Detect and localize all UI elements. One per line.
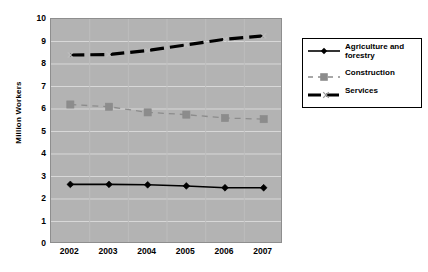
- legend-label-line1: Agriculture and: [345, 42, 404, 51]
- x-tick-label: 2005: [165, 247, 205, 256]
- series-marker: [145, 48, 150, 53]
- y-tick-label: 4: [22, 149, 46, 158]
- series-marker: [144, 181, 151, 188]
- series-marker: [221, 114, 228, 121]
- x-tick-label: 2002: [49, 247, 89, 256]
- series-marker: [105, 103, 112, 110]
- legend-swatch-icon: [306, 69, 342, 85]
- legend-label-line2: forestry: [345, 52, 421, 61]
- series-marker: [183, 111, 190, 118]
- legend-label-line1: Services: [345, 86, 378, 95]
- x-tick-label: 2007: [243, 247, 283, 256]
- series-marker: [67, 181, 74, 188]
- series-marker: [222, 184, 229, 191]
- legend-swatch-icon: [306, 43, 342, 59]
- y-tick-label: 7: [22, 82, 46, 91]
- y-axis-tick-labels: 109876543210: [20, 0, 46, 272]
- x-tick-label: 2003: [88, 247, 128, 256]
- y-tick-label: 6: [22, 104, 46, 113]
- series-marker: [260, 184, 267, 191]
- y-tick-label: 9: [22, 37, 46, 46]
- y-tick-label: 8: [22, 59, 46, 68]
- legend-label: Construction: [345, 69, 421, 78]
- legend-item-1[interactable]: Agriculture andforestry: [303, 43, 423, 63]
- legend-item-3[interactable]: Services: [303, 87, 423, 107]
- plot-canvas: [51, 19, 282, 243]
- y-tick-label: 1: [22, 217, 46, 226]
- x-tick-label: 2004: [127, 247, 167, 256]
- chart-figure: Million Workers 109876543210 20022003200…: [0, 0, 428, 272]
- legend-swatch-icon: [306, 87, 342, 103]
- y-tick-label: 3: [22, 172, 46, 181]
- series-marker: [67, 101, 74, 108]
- series-marker: [183, 183, 190, 190]
- y-tick-label: 2: [22, 194, 46, 203]
- series-marker: [144, 109, 151, 116]
- series-marker: [106, 181, 113, 188]
- y-tick-label: 5: [22, 127, 46, 136]
- x-tick-label: 2006: [204, 247, 244, 256]
- legend-label-line1: Construction: [345, 68, 395, 77]
- series-marker: [184, 42, 189, 47]
- y-tick-label: 0: [22, 239, 46, 248]
- series-marker: [260, 116, 267, 123]
- plot-area: [50, 18, 282, 243]
- y-tick-label: 10: [22, 14, 46, 23]
- x-axis-tick-labels: 200220032004200520062007: [50, 247, 282, 261]
- chart-legend: Agriculture andforestryConstructionServi…: [302, 38, 422, 108]
- gridlines: [51, 19, 282, 243]
- legend-label: Services: [345, 87, 421, 96]
- legend-label: Agriculture andforestry: [345, 43, 421, 60]
